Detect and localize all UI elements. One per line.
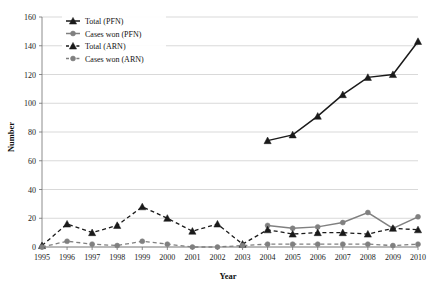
legend-marker-1 [71,31,76,36]
x-tick-label-2004: 2004 [260,253,276,262]
data-point [290,242,295,247]
data-point [139,203,146,210]
data-point [140,239,145,244]
y-tick-label-100: 100 [24,99,36,108]
data-point [365,210,370,215]
y-tick-label-0: 0 [32,243,36,252]
y-tick-label-160: 160 [24,13,36,22]
data-point [365,242,370,247]
y-tick-label-140: 140 [24,42,36,51]
series-line [42,241,418,247]
x-tick-label-2007: 2007 [335,253,351,262]
data-point [414,38,421,45]
data-point [115,243,120,248]
series-total-pfn [264,38,422,144]
data-series-group [38,38,421,250]
y-tick-label-20: 20 [28,214,36,223]
data-point [340,242,345,247]
data-point [416,214,421,219]
x-axis-label: Year [220,271,237,281]
series-cases-won-pfn [265,210,420,231]
y-axis-label: Number [6,122,16,152]
x-tick-label-1997: 1997 [84,253,100,262]
legend-label-2: Total (ARN) [85,42,126,51]
data-point [190,245,195,250]
data-point [165,242,170,247]
x-tick-label-1999: 1999 [134,253,150,262]
x-tick-label-2005: 2005 [285,253,301,262]
x-tick-label-2002: 2002 [209,253,225,262]
data-point [416,242,421,247]
data-point [65,239,70,244]
chart-legend: Total (PFN)Cases won (PFN)Total (ARN)Cas… [62,12,166,66]
data-point [90,242,95,247]
y-tick-label-60: 60 [28,157,36,166]
x-tick-label-2006: 2006 [310,253,326,262]
data-point [214,220,221,227]
legend-label-0: Total (PFN) [85,17,124,26]
data-point [40,245,45,250]
x-tick-label-2009: 2009 [385,253,401,262]
chart-container: 020406080100120140160 199519961997199819… [0,0,428,287]
data-point [215,245,220,250]
data-point [340,220,345,225]
x-tick-label-2008: 2008 [360,253,376,262]
legend-label-3: Cases won (ARN) [85,55,144,64]
data-point [114,222,121,229]
y-tick-label-120: 120 [24,71,36,80]
x-tick-label-2010: 2010 [410,253,426,262]
data-point [390,243,395,248]
x-tick-label-2003: 2003 [235,253,251,262]
x-tick-label-1996: 1996 [59,253,75,262]
series-line [42,207,418,246]
x-tick-label-1995: 1995 [34,253,50,262]
y-tick-label-40: 40 [28,186,36,195]
data-point [265,242,270,247]
data-point [315,242,320,247]
line-chart: 020406080100120140160 199519961997199819… [0,0,428,287]
data-point [63,220,70,227]
y-tick-label-80: 80 [28,128,36,137]
x-axis-tick-labels: 1995199619971998199920002001200220032004… [34,247,426,262]
data-point [314,229,321,236]
series-total-arn [38,203,421,248]
legend-label-1: Cases won (PFN) [85,30,142,39]
data-point [240,243,245,248]
x-tick-label-2000: 2000 [159,253,175,262]
data-point [264,226,271,233]
x-tick-label-1998: 1998 [109,253,125,262]
x-tick-label-2001: 2001 [184,253,200,262]
series-cases-won-arn [40,239,421,250]
legend-marker-3 [71,56,76,61]
y-axis-tick-labels: 020406080100120140160 [24,13,36,252]
